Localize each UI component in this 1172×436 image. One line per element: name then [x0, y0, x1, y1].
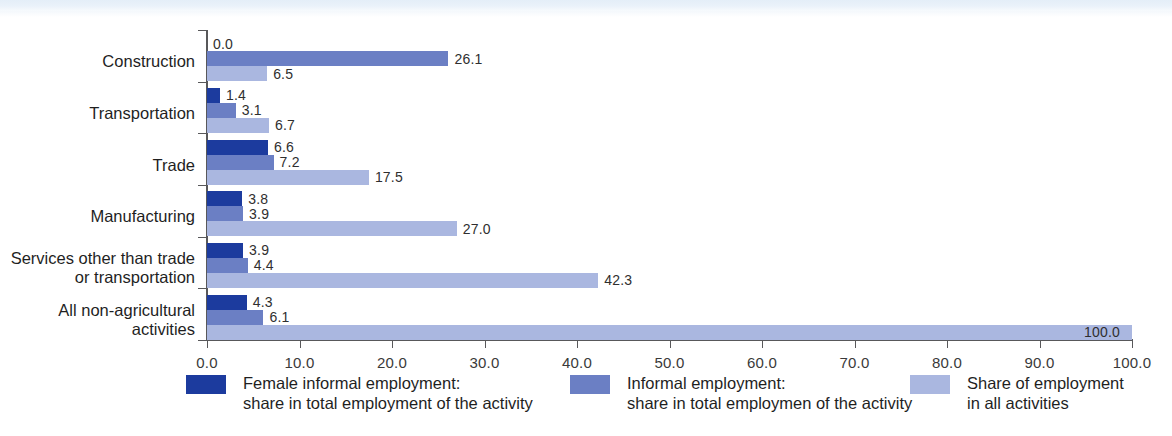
bar-value-label: 7.2	[280, 154, 300, 170]
bar[interactable]	[207, 66, 267, 81]
category-group: Services other than trade or transportat…	[207, 237, 1132, 289]
bar-row[interactable]: 4.4	[207, 258, 1132, 273]
x-axis-tick-label: 100.0	[1113, 354, 1152, 371]
x-axis-tick	[670, 340, 671, 348]
bar[interactable]	[207, 258, 248, 273]
legend-item[interactable]: Share of employment in all activities	[910, 374, 1124, 413]
category-group: All non-agricultural activities4.36.1100…	[207, 288, 1132, 340]
x-axis-tick-label: 90.0	[1025, 354, 1055, 371]
category-label: Manufacturing	[0, 207, 195, 226]
bar-row[interactable]: 3.1	[207, 103, 1132, 118]
bar-value-label: 3.1	[242, 102, 262, 118]
bar-row[interactable]: 6.1	[207, 310, 1132, 325]
x-axis-tick	[1132, 340, 1133, 348]
bar[interactable]	[207, 206, 243, 221]
bar-row[interactable]: 7.2	[207, 155, 1132, 170]
bar-value-label: 6.7	[275, 117, 295, 133]
bar-row[interactable]: 4.3	[207, 295, 1132, 310]
bar-row[interactable]: 6.7	[207, 118, 1132, 133]
y-axis-tick	[198, 288, 207, 289]
bar-value-label: 3.8	[248, 191, 268, 207]
y-axis-tick	[198, 30, 207, 31]
legend-label: Informal employment: share in total empl…	[627, 374, 912, 413]
bar[interactable]	[207, 310, 263, 325]
bar-value-label: 3.9	[249, 242, 269, 258]
x-axis-tick	[762, 340, 763, 348]
bar-value-label: 6.6	[274, 139, 294, 155]
bar-value-label: 6.5	[273, 66, 293, 82]
bar-value-label: 3.9	[249, 206, 269, 222]
bar[interactable]	[207, 155, 274, 170]
category-group: Construction0.026.16.5	[207, 30, 1132, 82]
category-label: Transportation	[0, 104, 195, 123]
plot-area: 0.010.020.030.040.050.060.070.080.090.01…	[207, 30, 1132, 340]
bar-row[interactable]: 26.1	[207, 51, 1132, 66]
x-axis-tick-label: 70.0	[840, 354, 870, 371]
y-axis-tick	[198, 133, 207, 134]
legend-item[interactable]: Informal employment: share in total empl…	[570, 374, 912, 413]
bar[interactable]	[207, 140, 268, 155]
x-axis-tick-label: 80.0	[932, 354, 962, 371]
x-axis-tick-label: 10.0	[285, 354, 315, 371]
bar-value-label: 4.4	[254, 257, 274, 273]
x-axis-tick	[300, 340, 301, 348]
x-axis-tick-label: 30.0	[470, 354, 500, 371]
legend-label: Share of employment in all activities	[967, 374, 1124, 413]
bar-row[interactable]: 6.6	[207, 140, 1132, 155]
bar[interactable]	[207, 221, 457, 236]
category-label: Trade	[0, 156, 195, 175]
chart-legend: Female informal employment: share in tot…	[0, 374, 1172, 430]
bar-value-label: 6.1	[269, 309, 289, 325]
x-axis-tick	[392, 340, 393, 348]
bar-row[interactable]: 100.0	[207, 325, 1132, 340]
bar-value-label: 42.3	[604, 272, 632, 288]
category-group: Transportation1.43.16.7	[207, 82, 1132, 134]
bar-row[interactable]: 42.3	[207, 273, 1132, 288]
category-group: Trade6.67.217.5	[207, 133, 1132, 185]
bar[interactable]	[207, 325, 1132, 340]
x-axis-tick-label: 60.0	[747, 354, 777, 371]
bar[interactable]	[207, 170, 369, 185]
category-label: Construction	[0, 52, 195, 71]
x-axis-tick	[577, 340, 578, 348]
bar-row[interactable]: 0.0	[207, 36, 1132, 51]
legend-swatch	[186, 375, 226, 394]
bar[interactable]	[207, 191, 242, 206]
bar-value-label: 4.3	[253, 294, 273, 310]
legend-label: Female informal employment: share in tot…	[243, 374, 533, 413]
bar[interactable]	[207, 243, 243, 258]
bar-row[interactable]: 1.4	[207, 88, 1132, 103]
bar[interactable]	[207, 295, 247, 310]
bar-row[interactable]: 3.9	[207, 206, 1132, 221]
bar[interactable]	[207, 273, 598, 288]
bar-row[interactable]: 27.0	[207, 221, 1132, 236]
bar-row[interactable]: 6.5	[207, 66, 1132, 81]
bar-value-label: 17.5	[375, 169, 403, 185]
y-axis-tick	[198, 185, 207, 186]
bar-value-label: 1.4	[226, 87, 246, 103]
category-label: Services other than trade or transportat…	[0, 249, 195, 287]
bar-chart-figure: 0.010.020.030.040.050.060.070.080.090.01…	[0, 0, 1172, 436]
legend-item[interactable]: Female informal employment: share in tot…	[186, 374, 533, 413]
legend-swatch	[910, 375, 950, 394]
y-axis-tick	[198, 237, 207, 238]
bar-value-label: 26.1	[454, 51, 482, 67]
y-axis-tick	[198, 340, 207, 341]
bar-row[interactable]: 3.9	[207, 243, 1132, 258]
bar-row[interactable]: 3.8	[207, 191, 1132, 206]
legend-swatch	[570, 375, 610, 394]
bar-row[interactable]: 17.5	[207, 170, 1132, 185]
bar-value-label: 0.0	[213, 36, 233, 52]
y-axis-tick	[198, 82, 207, 83]
bar-value-label: 27.0	[463, 221, 491, 237]
x-axis-tick	[1040, 340, 1041, 348]
x-axis-tick	[207, 340, 208, 348]
category-label: All non-agricultural activities	[0, 301, 195, 339]
bar[interactable]	[207, 51, 448, 66]
x-axis-tick	[947, 340, 948, 348]
bar[interactable]	[207, 88, 220, 103]
category-group: Manufacturing3.83.927.0	[207, 185, 1132, 237]
bar[interactable]	[207, 103, 236, 118]
x-axis-tick-label: 50.0	[655, 354, 685, 371]
bar[interactable]	[207, 118, 269, 133]
